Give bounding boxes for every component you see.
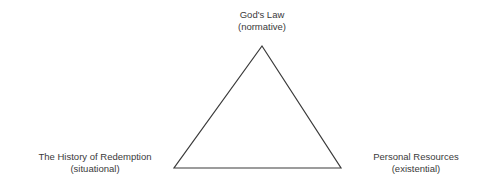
vertex-label-left-secondary: (situational) — [22, 163, 168, 175]
vertex-label-left: The History of Redemption (situational) — [22, 151, 168, 175]
vertex-label-top: God's Law (normative) — [202, 9, 322, 33]
vertex-label-top-secondary: (normative) — [202, 21, 322, 33]
diagram-canvas: God's Law (normative) The History of Red… — [0, 0, 486, 192]
vertex-label-top-primary: God's Law — [202, 9, 322, 21]
triangle-outline — [174, 46, 341, 168]
vertex-label-right-primary: Personal Resources — [352, 151, 480, 163]
vertex-label-right: Personal Resources (existential) — [352, 151, 480, 175]
vertex-label-right-secondary: (existential) — [352, 163, 480, 175]
vertex-label-left-primary: The History of Redemption — [22, 151, 168, 163]
